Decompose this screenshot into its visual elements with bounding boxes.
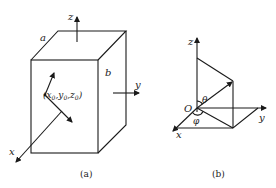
phi-label: φ bbox=[193, 116, 200, 126]
projection-xy-line bbox=[197, 108, 233, 128]
y-axis-label-b: y bbox=[258, 112, 265, 123]
theta-label: θ bbox=[202, 95, 208, 105]
box-front-face bbox=[31, 60, 98, 153]
z-axis-label-b: z bbox=[187, 36, 194, 47]
x-axis-label-b: x bbox=[176, 129, 182, 140]
z-axis-label: z bbox=[67, 11, 74, 22]
caption-b: (b) bbox=[212, 169, 225, 179]
x-axis-label: x bbox=[9, 146, 15, 157]
phi-arc bbox=[193, 112, 204, 116]
origin-label: O bbox=[184, 103, 192, 114]
figure-b: z y x θ φ O (b) bbox=[173, 36, 266, 179]
edge-a-label: a bbox=[40, 32, 46, 43]
figure-canvas: z y x a b (x0,y0,z0) (a) z y x bbox=[0, 0, 276, 188]
figure-a: z y x a b (x0,y0,z0) (a) bbox=[9, 11, 141, 179]
box-right-face bbox=[98, 31, 126, 153]
x-axis-arrow bbox=[16, 111, 62, 162]
y-axis-label: y bbox=[134, 79, 141, 90]
edge-b-label: b bbox=[105, 67, 111, 78]
caption-a: (a) bbox=[80, 169, 92, 179]
point-label: (x0,y0,z0) bbox=[43, 90, 83, 101]
z-projection-line bbox=[197, 58, 233, 81]
